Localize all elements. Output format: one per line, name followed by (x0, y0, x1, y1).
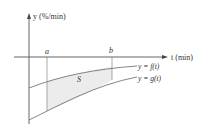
curve-g-label: y = g(t) (137, 74, 161, 83)
y-axis-arrow-icon (27, 13, 31, 19)
area-between-curves-diagram: y (%/min) t (min) a b S y = f(t) y = g(t… (0, 0, 212, 130)
t-axis-arrow-icon (162, 55, 168, 59)
region-s-label: S (77, 75, 81, 84)
y-axis-label: y (%/min) (33, 12, 66, 21)
t-axis-label: t (min) (171, 53, 193, 62)
curve-f-label: y = f(t) (137, 62, 160, 71)
point-b-label: b (109, 46, 113, 55)
point-a-label: a (45, 47, 49, 56)
